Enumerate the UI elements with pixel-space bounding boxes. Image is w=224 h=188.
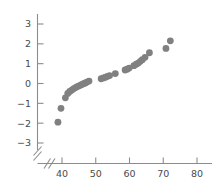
y-tick-label-3: 3 xyxy=(25,18,31,29)
data-point xyxy=(163,45,170,52)
data-point xyxy=(146,49,153,56)
data-point-series xyxy=(55,37,174,125)
y-tick-label-1: 1 xyxy=(25,58,31,69)
data-point xyxy=(58,105,65,112)
x-tick-label-80: 80 xyxy=(191,168,203,179)
data-point xyxy=(86,78,93,85)
x-axis: 4050607080 xyxy=(38,158,213,180)
x-axis-ticks xyxy=(62,158,197,164)
x-tick-label-40: 40 xyxy=(56,168,68,179)
x-tick-label-60: 60 xyxy=(123,168,135,179)
data-point xyxy=(112,70,119,77)
y-axis-tick-labels: −3−2−10123 xyxy=(17,18,31,148)
data-point xyxy=(55,119,62,126)
x-tick-label-50: 50 xyxy=(90,168,102,179)
y-tick-label-neg3: −3 xyxy=(17,137,31,148)
chart-canvas: −3−2−10123 4050607080 xyxy=(0,0,224,188)
y-axis-ticks xyxy=(38,24,44,143)
y-tick-label-0: 0 xyxy=(25,78,31,89)
y-tick-label-neg1: −1 xyxy=(17,98,31,109)
y-tick-label-neg2: −2 xyxy=(17,118,31,129)
y-tick-label-2: 2 xyxy=(25,38,31,49)
y-axis: −3−2−10123 xyxy=(17,14,44,161)
x-axis-tick-labels: 4050607080 xyxy=(56,168,203,179)
scatter-plot-figure: −3−2−10123 4050607080 xyxy=(0,0,224,188)
x-tick-label-70: 70 xyxy=(157,168,169,179)
data-point xyxy=(167,37,174,44)
